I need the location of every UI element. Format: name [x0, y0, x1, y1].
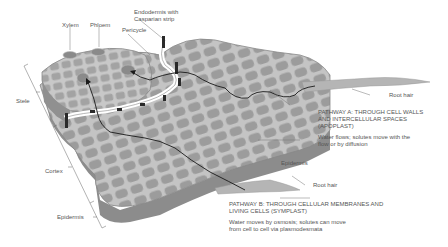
- pathway-b-title-line1: PATHWAY B: THROUGH CELLULAR MEMBRANES AN…: [229, 201, 429, 208]
- phloem-cell: [91, 49, 105, 56]
- pathway-a-desc-line2: flow or by diffusion: [318, 141, 448, 148]
- pathway-b-desc-line2: from cell to cell via plasmodesmata: [229, 226, 429, 233]
- pathway-a-caption: PATHWAY A: THROUGH CELL WALLS AND INTERC…: [318, 109, 448, 148]
- label-cortex: Cortex: [45, 168, 63, 175]
- label-epidermis-left: Epidermis: [57, 214, 84, 221]
- pathway-a-desc-line1: Water flows; solutes move with the: [318, 134, 448, 141]
- label-endodermis-line2: Casparian strip: [134, 16, 174, 23]
- pathway-b-desc-line1: Water moves by osmosis; solutes can move: [229, 219, 429, 226]
- label-epidermis-right: Epidermis: [281, 160, 308, 167]
- pathway-a-title-line2: AND INTERCELLULAR SPACES: [318, 116, 448, 123]
- label-phloem: Phloem: [90, 22, 110, 29]
- pathway-b-title-line2: LIVING CELLS (SYMPLAST): [229, 208, 429, 215]
- pathway-b-caption: PATHWAY B: THROUGH CELLULAR MEMBRANES AN…: [229, 201, 429, 233]
- pathway-a-title-line1: PATHWAY A: THROUGH CELL WALLS: [318, 109, 448, 116]
- label-root-hair-bottom: Root hair: [313, 182, 337, 189]
- label-stele: Stele: [16, 98, 30, 105]
- label-pericycle: Pericycle: [122, 27, 146, 34]
- label-xylem: Xylem: [62, 22, 79, 29]
- label-root-hair-top: Root hair: [389, 92, 413, 99]
- xylem-cell: [63, 52, 77, 59]
- pathway-a-title-line3: (APOPLAST): [318, 123, 448, 130]
- label-endodermis-line1: Endodermis with: [134, 9, 178, 16]
